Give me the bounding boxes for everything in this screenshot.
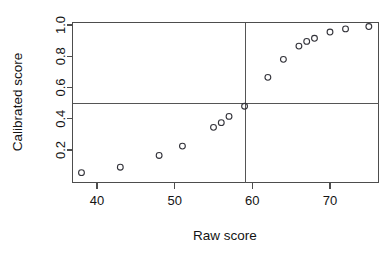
data-point <box>366 24 372 30</box>
data-point <box>312 35 318 41</box>
data-point <box>304 39 310 45</box>
x-tick-label-60: 60 <box>245 193 259 208</box>
data-point <box>79 170 85 176</box>
x-axis-ticks <box>97 183 330 189</box>
x-tick-label-40: 40 <box>90 193 104 208</box>
data-point <box>327 29 333 35</box>
data-point <box>117 164 123 170</box>
y-axis-title: Calibrated score <box>10 53 25 151</box>
reference-lines <box>73 23 379 183</box>
data-point <box>218 120 224 126</box>
x-axis-title: Raw score <box>193 228 257 243</box>
y-axis-tick-labels: 0.20.40.60.81.0 <box>53 16 68 159</box>
x-axis-tick-labels: 40506070 <box>90 193 337 208</box>
data-points <box>79 24 372 176</box>
x-tick-label-70: 70 <box>323 193 337 208</box>
y-tick-label-1.0: 1.0 <box>53 16 68 34</box>
data-point <box>265 74 271 80</box>
data-point <box>180 143 186 149</box>
data-point <box>296 43 302 49</box>
data-point <box>156 153 162 159</box>
data-point <box>281 56 287 62</box>
y-tick-label-0.6: 0.6 <box>53 78 68 96</box>
data-point <box>242 103 248 109</box>
data-point <box>211 124 217 130</box>
data-point <box>226 114 232 120</box>
plot-frame <box>73 23 379 183</box>
y-tick-label-0.8: 0.8 <box>53 47 68 65</box>
y-tick-label-0.2: 0.2 <box>53 141 68 159</box>
calibration-scatter-figure: 40506070 0.20.40.60.81.0 Raw score Calib… <box>0 0 385 255</box>
y-tick-label-0.4: 0.4 <box>53 110 68 128</box>
x-tick-label-50: 50 <box>167 193 181 208</box>
plot-canvas: 40506070 0.20.40.60.81.0 Raw score Calib… <box>0 0 385 255</box>
data-point <box>343 26 349 32</box>
plot-border <box>73 23 379 183</box>
